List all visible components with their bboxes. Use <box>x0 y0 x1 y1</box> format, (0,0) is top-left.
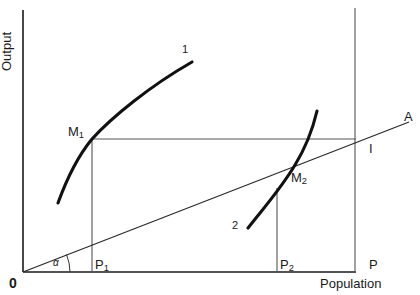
point-label-i: I <box>369 142 373 155</box>
angle-alpha-label: α <box>53 258 59 268</box>
point-label-p1-base: P <box>95 257 104 272</box>
curve-2-label: 2 <box>232 220 238 231</box>
point-label-p2-sub: 2 <box>289 263 294 273</box>
curve-1-label: 1 <box>182 44 188 55</box>
diagram-canvas <box>0 0 420 295</box>
angle-alpha-arc <box>67 255 71 273</box>
point-label-p1: P1 <box>95 258 109 274</box>
point-label-p2-base: P <box>280 257 289 272</box>
point-label-m2: M2 <box>291 171 307 187</box>
ray-a-label-base: A <box>404 109 413 124</box>
point-label-p: P <box>369 258 378 271</box>
origin-label: 0 <box>9 276 17 290</box>
economics-diagram: Output Population 0 α M1 M2 I P1 P2 P A … <box>0 0 420 295</box>
ray-a-label: A <box>404 110 413 123</box>
point-label-m1-sub: 1 <box>79 130 84 140</box>
point-label-p-base: P <box>369 257 378 272</box>
ray-a-line <box>23 122 409 272</box>
point-label-m2-sub: 2 <box>302 176 307 186</box>
point-label-m1-base: M <box>68 124 79 139</box>
point-label-m1: M1 <box>68 125 84 141</box>
point-label-m2-base: M <box>291 170 302 185</box>
point-label-p2: P2 <box>280 258 294 274</box>
curve-2-path <box>248 111 317 228</box>
x-axis-title: Population <box>320 277 381 290</box>
y-axis-title: Output <box>0 32 13 71</box>
point-label-p1-sub: 1 <box>104 263 109 273</box>
point-label-i-base: I <box>369 141 373 156</box>
